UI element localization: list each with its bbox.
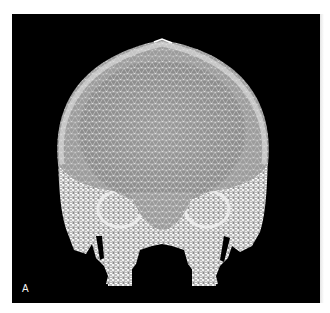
figure-panel: A bbox=[12, 14, 320, 303]
right-teeth bbox=[192, 260, 216, 286]
panel-label: A bbox=[22, 284, 29, 294]
left-teeth bbox=[108, 260, 132, 286]
skull-mesh-render bbox=[12, 14, 320, 303]
page-edge-shadow bbox=[320, 14, 324, 303]
